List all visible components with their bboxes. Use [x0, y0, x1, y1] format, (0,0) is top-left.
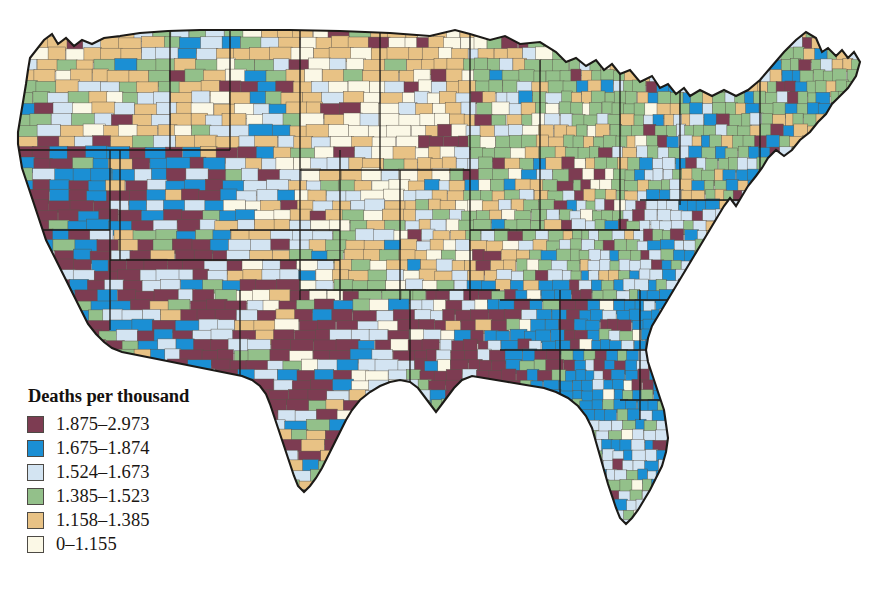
county-cell: [720, 259, 734, 272]
county-cell: [525, 499, 541, 513]
county-cell: [703, 70, 714, 83]
county-cell: [825, 350, 836, 363]
county-cell: [611, 27, 622, 42]
county-cell: [355, 499, 379, 511]
county-cell: [827, 260, 840, 272]
county-cell: [820, 440, 830, 452]
county-cell: [732, 259, 746, 273]
county-cell: [802, 168, 816, 182]
county-cell: [748, 400, 762, 412]
county-cell: [514, 299, 531, 311]
county-cell: [381, 451, 399, 464]
county-cell: [775, 530, 787, 541]
county-cell: [715, 321, 726, 335]
county-cell: [803, 241, 816, 253]
county-cell: [480, 440, 498, 453]
county-cell: [694, 400, 707, 413]
county-cell: [599, 27, 612, 40]
county-cell: [774, 471, 784, 485]
county-cell: [399, 510, 421, 522]
county-cell: [369, 330, 388, 341]
county-cell: [653, 27, 664, 42]
county-cell: [643, 530, 657, 542]
county-cell: [513, 490, 529, 503]
county-cell: [451, 530, 469, 541]
county-cell: [113, 360, 133, 374]
county-cell: [847, 270, 860, 283]
county-cell: [699, 470, 711, 481]
county-cell: [386, 400, 405, 413]
county-cell: [867, 390, 878, 402]
county-cell: [393, 530, 409, 542]
county-cell: [814, 450, 826, 461]
county-cell: [499, 430, 512, 442]
county-cell: [697, 391, 708, 404]
county-cell: [751, 409, 764, 421]
county-cell: [824, 320, 835, 333]
county-cell: [246, 421, 263, 432]
county-cell: [783, 289, 793, 301]
county-cell: [496, 441, 513, 453]
county-cell: [712, 489, 725, 502]
county-cell: [783, 230, 795, 242]
county-cell: [560, 460, 571, 473]
county-cell: [229, 92, 251, 104]
county-cell: [779, 519, 790, 531]
county-cell: [444, 420, 459, 434]
county-cell: [333, 500, 355, 511]
county-cell: [379, 461, 397, 473]
county-cell: [556, 470, 573, 483]
county-cell: [697, 301, 710, 314]
county-cell: [672, 511, 684, 524]
county-cell: [365, 400, 386, 411]
county-cell: [573, 481, 586, 494]
county-cell: [769, 157, 781, 172]
county-cell: [705, 38, 718, 53]
county-cell: [534, 479, 550, 492]
county-cell: [701, 520, 713, 534]
county-cell: [580, 500, 590, 514]
county-cell: [471, 92, 484, 104]
county-cell: [826, 240, 838, 252]
county-cell: [226, 169, 243, 182]
county-cell: [766, 135, 780, 149]
county-cell: [441, 431, 457, 446]
county-cell: [662, 70, 676, 82]
county-cell: [787, 380, 799, 391]
county-cell: [13, 27, 34, 42]
county-cell: [702, 449, 716, 464]
county-cell: [699, 459, 712, 470]
county-cell: [730, 201, 741, 216]
county-cell: [485, 450, 500, 464]
county-cell: [809, 359, 821, 370]
county-cell: [819, 460, 831, 471]
county-cell: [245, 489, 266, 501]
county-cell: [706, 249, 719, 261]
county-cell: [836, 271, 849, 284]
county-cell: [598, 49, 607, 64]
county-cell: [849, 181, 860, 196]
county-cell: [719, 469, 733, 481]
county-cell: [351, 330, 369, 341]
county-cell: [478, 389, 491, 403]
county-cell: [676, 441, 688, 454]
county-cell: [454, 410, 469, 422]
county-cell: [715, 229, 729, 241]
county-cell: [857, 200, 868, 214]
county-cell: [825, 221, 835, 235]
county-cell: [827, 271, 837, 286]
county-cell: [378, 529, 394, 542]
county-cell: [842, 300, 854, 312]
county-cell: [813, 259, 826, 271]
legend-range-label: 1.158–1.385: [56, 510, 150, 531]
county-cell: [783, 409, 796, 424]
county-cell: [720, 400, 730, 414]
county-cell: [858, 92, 871, 108]
county-cell: [859, 291, 871, 306]
county-cell: [679, 530, 690, 543]
county-cell: [782, 180, 794, 193]
county-cell: [519, 479, 535, 494]
county-cell: [763, 48, 773, 63]
county-cell: [860, 180, 873, 192]
county-cell: [717, 59, 728, 72]
